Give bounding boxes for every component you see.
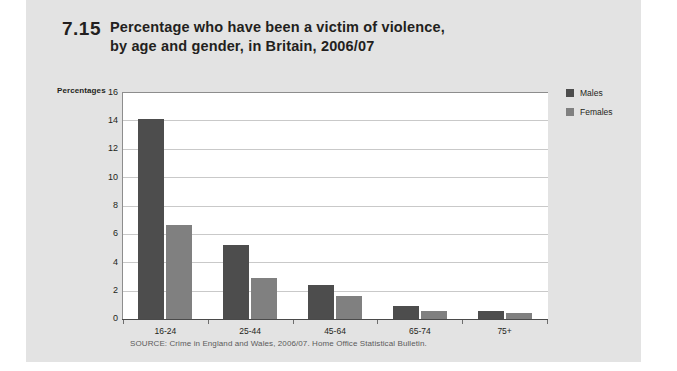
y-tick-label-4: 4 (96, 257, 118, 267)
bar-chart: Percentages 16 14 12 10 8 6 4 2 0 16-242… (0, 0, 677, 371)
bars-layer (123, 92, 547, 319)
bar-males-75+ (478, 311, 504, 320)
legend-label-males: Males (580, 88, 603, 98)
x-tick-label-65-74: 65-74 (380, 326, 460, 336)
y-tick-label-2: 2 (96, 285, 118, 295)
bar-females-25-44 (251, 278, 277, 319)
legend-label-females: Females (580, 107, 613, 117)
source-note: SOURCE: Crime in England and Wales, 2006… (130, 339, 427, 348)
x-tick-mark-end (547, 320, 548, 324)
y-tick-label-6: 6 (96, 228, 118, 238)
bar-males-25-44 (223, 245, 249, 319)
x-tick-mark-75+ (462, 320, 463, 324)
bar-females-65-74 (421, 311, 447, 320)
x-tick-label-16-24: 16-24 (125, 326, 205, 336)
y-tick-label-10: 10 (96, 172, 118, 182)
x-axis-line (122, 319, 548, 320)
legend-item-males: Males (566, 88, 613, 98)
x-tick-mark-25-44 (208, 320, 209, 324)
x-tick-label-75+: 75+ (465, 326, 545, 336)
y-tick-label-16: 16 (96, 87, 118, 97)
bar-males-65-74 (393, 306, 419, 319)
y-tick-label-12: 12 (96, 143, 118, 153)
figure-screenshot: 7.15Percentage who have been a victim of… (0, 0, 677, 371)
legend-item-females: Females (566, 107, 613, 117)
y-tick-label-8: 8 (96, 200, 118, 210)
x-tick-mark-16-24 (123, 320, 124, 324)
legend-swatch-icon-females (566, 108, 574, 116)
x-tick-label-25-44: 25-44 (210, 326, 290, 336)
y-tick-label-0: 0 (96, 313, 118, 323)
chart-legend: Males Females (566, 88, 613, 126)
x-tick-mark-45-64 (293, 320, 294, 324)
legend-swatch-icon-males (566, 89, 574, 97)
x-tick-label-45-64: 45-64 (295, 326, 375, 336)
bar-males-45-64 (308, 285, 334, 319)
bar-females-75+ (506, 313, 532, 319)
x-tick-mark-65-74 (377, 320, 378, 324)
bar-females-16-24 (166, 225, 192, 319)
bar-females-45-64 (336, 296, 362, 319)
y-tick-label-14: 14 (96, 115, 118, 125)
bar-males-16-24 (138, 119, 164, 319)
